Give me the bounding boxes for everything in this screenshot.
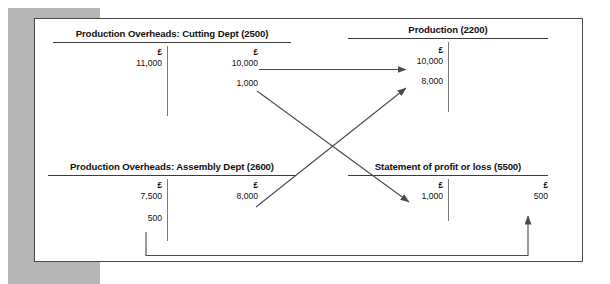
t-account-debit-cell: 8,000 [378,76,443,86]
amount-value: 8,000 [378,76,443,86]
t-account-production-overheads-assembly: Production Overheads: Assembly Dept (260… [48,161,296,261]
t-account-credit-cell: £ 500 [483,181,548,201]
t-account-divider [167,46,168,116]
t-account-title: Production Overheads: Cutting Dept (2500… [53,28,291,39]
t-account-credit-cell: 1,000 [193,78,258,88]
t-account-debit-cell: £ 7,500 [97,181,162,201]
amount-value: 10,000 [193,58,258,68]
t-account-production: Production (2200) £ 10,000 8,000 [348,24,548,134]
currency-symbol: £ [97,181,162,191]
t-account-header-rule [348,38,548,39]
t-account-debit-cell: £ 1,000 [378,181,443,201]
t-account-title: Statement of profit or loss (5500) [348,161,548,172]
t-account-title: Production Overheads: Assembly Dept (260… [48,161,296,172]
amount-value: 500 [97,213,162,223]
t-account-credit-cell: £ 8,000 [193,181,258,201]
amount-value: 8,000 [193,191,258,201]
currency-symbol: £ [378,46,443,56]
t-account-debit-cell: 500 [97,213,162,223]
currency-symbol: £ [378,181,443,191]
currency-symbol: £ [193,181,258,191]
amount-value: 500 [483,191,548,201]
currency-symbol: £ [193,48,258,58]
currency-symbol: £ [483,181,548,191]
amount-value: 1,000 [193,78,258,88]
t-account-credit-cell: £ 10,000 [193,48,258,68]
t-account-header-rule [53,42,291,43]
t-account-divider [448,42,449,112]
t-account-debit-cell: £ 10,000 [378,46,443,66]
t-account-header-rule [348,175,548,176]
amount-value: 1,000 [378,191,443,201]
t-account-debit-cell: £ 11,000 [97,48,162,68]
t-account-header-rule [48,175,296,176]
amount-value: 10,000 [378,56,443,66]
currency-symbol: £ [97,48,162,58]
t-account-title: Production (2200) [348,24,548,35]
t-account-divider [448,179,449,221]
amount-value: 11,000 [97,58,162,68]
t-account-statement-of-profit-or-loss: Statement of profit or loss (5500) £ 1,0… [348,161,548,261]
t-account-divider [167,179,168,241]
amount-value: 7,500 [97,191,162,201]
diagram-canvas: Production Overheads: Cutting Dept (2500… [0,0,610,284]
t-account-production-overheads-cutting: Production Overheads: Cutting Dept (2500… [53,28,291,138]
